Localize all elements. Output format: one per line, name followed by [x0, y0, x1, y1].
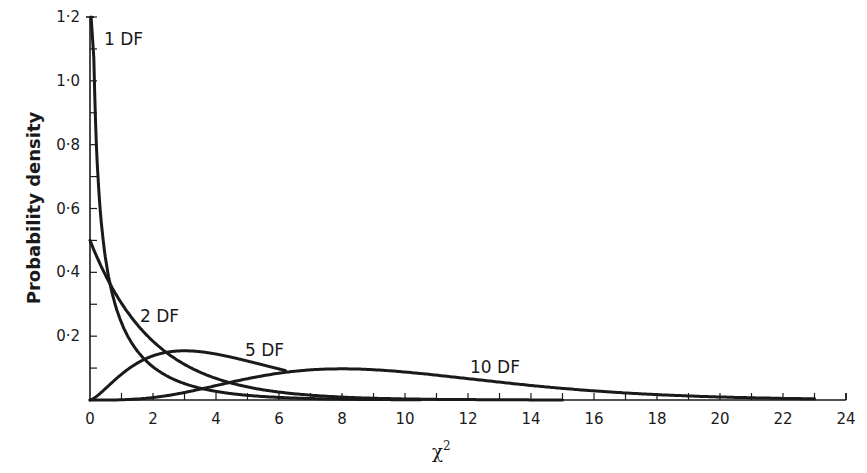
x-axis-label: χ2	[432, 439, 451, 462]
x-tick-label: 16	[584, 410, 603, 428]
x-tick-label: 14	[521, 410, 540, 428]
y-tick-label: 1·2	[56, 8, 80, 26]
x-tick-label: 24	[836, 410, 855, 428]
x-tick-label: 18	[647, 410, 666, 428]
x-tick-label: 10	[395, 410, 414, 428]
y-tick-label: 0·6	[56, 200, 80, 218]
x-tick-label: 0	[85, 410, 95, 428]
label-5-df: 5 DF	[245, 340, 284, 360]
y-axis-label: Probability density	[23, 111, 44, 304]
y-tick-label: 0·4	[56, 263, 80, 281]
curve-10-df	[90, 369, 815, 400]
x-tick-label: 4	[211, 410, 221, 428]
label-10-df: 10 DF	[470, 357, 520, 377]
x-tick-labels: 024681012141618202224	[85, 410, 855, 428]
axes	[86, 17, 846, 400]
y-tick-label: 0·8	[56, 136, 80, 154]
x-tick-label: 12	[458, 410, 477, 428]
y-tick-label: 0·2	[56, 327, 80, 345]
chi-square-density-chart: 024681012141618202224 0·20·40·60·81·01·2…	[0, 0, 867, 473]
x-tick-label: 6	[274, 410, 284, 428]
y-tick-labels: 0·20·40·60·81·01·2	[56, 8, 80, 345]
x-tick-label: 2	[148, 410, 158, 428]
y-tick-label: 1·0	[56, 72, 80, 90]
density-curves	[90, 17, 815, 400]
x-tick-label: 20	[710, 410, 729, 428]
x-tick-label: 8	[337, 410, 347, 428]
x-tick-label: 22	[773, 410, 792, 428]
label-2-df: 2 DF	[140, 306, 179, 326]
label-1-df: 1 DF	[104, 29, 143, 49]
